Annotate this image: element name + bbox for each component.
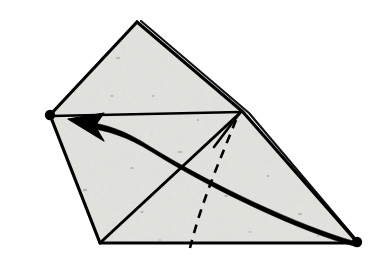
right-vertex-dot	[352, 237, 362, 247]
origami-figure-svg	[0, 0, 377, 266]
left-vertex-dot	[45, 110, 55, 120]
origami-diagram	[0, 0, 377, 266]
